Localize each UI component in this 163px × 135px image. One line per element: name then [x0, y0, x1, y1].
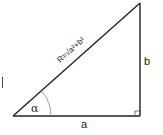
hypotenuse-label: R=√a²+b² — [55, 35, 86, 64]
triangle-svg: α a b R=√a²+b² — [0, 0, 163, 135]
right-triangle-diagram: α a b R=√a²+b² — [0, 0, 163, 135]
hypotenuse-line — [13, 3, 140, 116]
angle-arc — [41, 91, 51, 116]
base-label: a — [81, 118, 88, 130]
angle-label: α — [31, 102, 39, 115]
right-angle-marker — [135, 111, 140, 116]
height-label: b — [144, 55, 150, 67]
